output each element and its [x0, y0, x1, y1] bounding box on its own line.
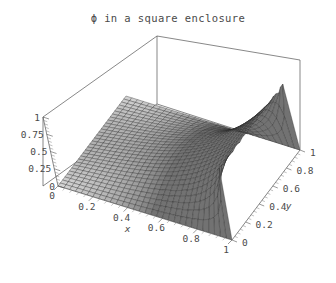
x-tick-label: 0.6: [148, 222, 165, 233]
y-axis: 00.20.40.60.81: [232, 147, 316, 248]
y-tick-label: 0.4: [269, 201, 286, 212]
z-tick-label: 0.75: [21, 129, 44, 140]
y-tick-label: 0.6: [283, 183, 300, 194]
z-tick-label: 0.5: [30, 146, 47, 157]
z-tick-label: 1: [34, 112, 40, 123]
plot-title: ϕ in a square enclosure: [91, 12, 246, 24]
y-tick-label: 0.8: [296, 165, 313, 176]
y-tick-label: 0.2: [256, 219, 273, 230]
x-tick-label: 0.8: [183, 233, 200, 244]
x-tick-label: 0: [49, 190, 55, 201]
x-tick-label: 0.4: [113, 212, 130, 223]
x-axis-label: x: [124, 223, 131, 234]
y-tick-label: 0: [242, 237, 248, 248]
x-tick-label: 1: [223, 244, 229, 255]
z-axis: 00.250.50.751: [21, 112, 64, 192]
surface-mesh: [58, 84, 300, 240]
x-tick-label: 0.2: [78, 201, 95, 212]
plot-canvas: 00.250.50.751 00.20.40.60.81 00.20.40.60…: [0, 0, 336, 283]
y-axis-label: y: [285, 200, 292, 211]
y-tick-label: 1: [310, 147, 316, 158]
z-tick-label: 0.25: [28, 163, 51, 174]
surface-plot-figure: 00.250.50.751 00.20.40.60.81 00.20.40.60…: [0, 0, 336, 283]
